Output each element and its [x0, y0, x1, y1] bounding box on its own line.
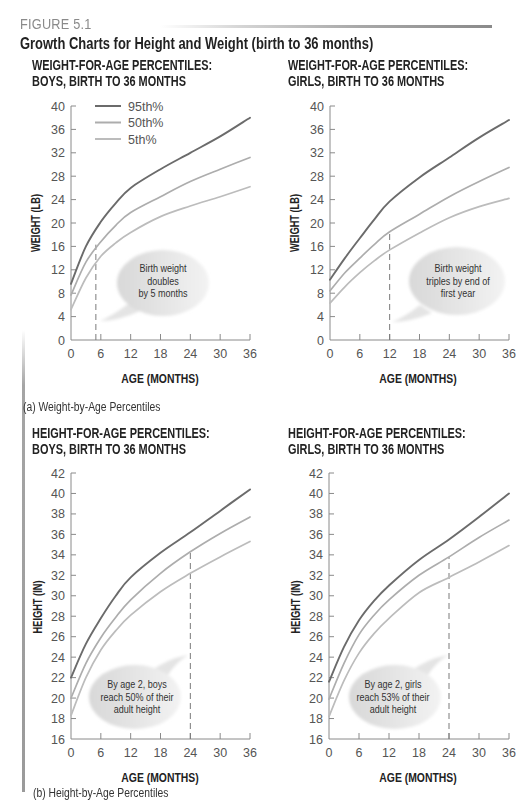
callout-text-girls-weight: Birth weight triples by end of first yea… [426, 262, 490, 300]
y-tick-label: 34 [51, 548, 65, 562]
callout-line: triples by end of [426, 275, 490, 288]
chart-title-boys-weight: WEIGHT-FOR-AGE PERCENTILES: BOYS, BIRTH … [32, 57, 212, 89]
callout-line: adult height [100, 703, 173, 716]
legend-label: 95th% [128, 100, 163, 114]
y-tick-label: 20 [51, 217, 65, 231]
x-tick-label: 12 [382, 746, 396, 760]
y-tick-label: 30 [51, 589, 65, 603]
y-tick-label: 36 [51, 123, 65, 137]
x-tick-label: 24 [183, 746, 197, 760]
y-tick-label: 24 [309, 651, 323, 665]
y-tick-label: 8 [58, 287, 65, 301]
legend-item-p5: 5th% [95, 133, 157, 147]
y-tick-label: 16 [51, 733, 65, 747]
callout-text-boys-weight: Birth weight doubles by 5 months [138, 262, 187, 300]
curve-p95 [329, 494, 509, 682]
y-tick-label: 8 [317, 287, 324, 301]
y-axis-label-girls-weight: WEIGHT (LB) [288, 194, 302, 252]
x-tick-label: 30 [472, 746, 486, 760]
y-axis-label-boys-weight: WEIGHT (LB) [29, 194, 43, 252]
y-tick-label: 18 [51, 712, 65, 726]
y-tick-label: 20 [309, 692, 323, 706]
x-tick-label: 36 [243, 746, 257, 760]
y-tick-label: 22 [51, 671, 65, 685]
callout-line: by 5 months [138, 287, 187, 300]
y-tick-label: 22 [309, 671, 323, 685]
y-tick-label: 28 [51, 610, 65, 624]
y-axis-label-girls-height: HEIGHT (IN) [289, 581, 303, 634]
y-tick-label: 24 [51, 651, 65, 665]
x-axis-label-boys-height: AGE (MONTHS) [121, 770, 198, 785]
y-tick-label: 40 [310, 100, 324, 114]
x-tick-label: 18 [154, 746, 168, 760]
y-tick-label: 24 [310, 193, 324, 207]
y-tick-label: 36 [310, 123, 324, 137]
x-tick-label: 18 [154, 347, 168, 361]
x-axis-label-girls-height: AGE (MONTHS) [379, 770, 456, 785]
callout-tail [392, 305, 432, 322]
x-tick-label: 6 [97, 347, 104, 361]
y-tick-label: 4 [317, 310, 324, 324]
y-tick-label: 12 [310, 263, 324, 277]
callout-text-boys-height: By age 2, boys reach 50% of their adult … [100, 678, 173, 716]
axes-girls-weight: 0481216202428323640061218243036 [310, 100, 516, 362]
x-tick-label: 6 [356, 746, 363, 760]
chart-title-line-1: WEIGHT-FOR-AGE PERCENTILES: [32, 57, 212, 73]
y-tick-label: 38 [309, 507, 323, 521]
legend-item-p95: 95th% [95, 100, 163, 114]
chart-title-line-2: GIRLS, BIRTH TO 36 MONTHS [288, 441, 466, 457]
x-tick-label: 12 [124, 347, 138, 361]
y-tick-label: 26 [309, 630, 323, 644]
x-tick-label: 30 [472, 347, 486, 361]
x-tick-label: 36 [502, 746, 516, 760]
legend-item-p50: 50th% [95, 116, 163, 130]
y-axis-label-boys-height: HEIGHT (IN) [31, 581, 45, 634]
x-tick-label: 36 [243, 347, 257, 361]
x-tick-label: 36 [502, 347, 516, 361]
chart-title-line-1: HEIGHT-FOR-AGE PERCENTILES: [288, 425, 466, 441]
x-tick-label: 0 [68, 347, 75, 361]
callout-line: Birth weight [426, 262, 490, 275]
y-tick-label: 32 [51, 146, 65, 160]
y-tick-label: 36 [309, 528, 323, 542]
legend-label: 5th% [128, 133, 157, 147]
y-tick-label: 24 [51, 193, 65, 207]
y-tick-label: 28 [310, 170, 324, 184]
y-tick-label: 40 [309, 487, 323, 501]
callout-bubbles [89, 247, 505, 729]
x-tick-label: 24 [442, 746, 456, 760]
legend-label: 50th% [128, 116, 163, 130]
callout-line: By age 2, boys [100, 678, 173, 691]
y-tick-label: 40 [51, 487, 65, 501]
y-tick-label: 30 [309, 589, 323, 603]
y-tick-label: 20 [51, 692, 65, 706]
x-tick-label: 12 [124, 746, 138, 760]
x-tick-label: 0 [326, 746, 333, 760]
y-tick-label: 32 [310, 146, 324, 160]
y-tick-label: 38 [51, 507, 65, 521]
y-tick-label: 40 [51, 100, 65, 114]
callout-line: Birth weight [138, 262, 187, 275]
callout-text-girls-height: By age 2, girls reach 53% of their adult… [356, 678, 429, 716]
x-tick-label: 24 [183, 347, 197, 361]
chart-title-line-2: BOYS, BIRTH TO 36 MONTHS [32, 441, 210, 457]
y-tick-label: 36 [51, 528, 65, 542]
y-tick-label: 16 [309, 733, 323, 747]
chart-title-line-1: WEIGHT-FOR-AGE PERCENTILES: [288, 57, 468, 73]
y-tick-label: 16 [51, 240, 65, 254]
legend: 95th%50th%5th% [95, 100, 163, 147]
x-tick-label: 0 [68, 746, 75, 760]
chart-title-boys-height: HEIGHT-FOR-AGE PERCENTILES: BOYS, BIRTH … [32, 425, 210, 457]
x-axis-label-girls-weight: AGE (MONTHS) [379, 371, 456, 386]
curve-p95 [71, 489, 250, 677]
callout-line: reach 50% of their [100, 691, 173, 704]
caption-a: (a) Weight-by-Age Percentiles [23, 400, 160, 414]
callout-line: adult height [356, 703, 429, 716]
callout-line: By age 2, girls [356, 678, 429, 691]
caption-b: (b) Height-by-Age Percentiles [33, 786, 168, 800]
y-tick-label: 42 [309, 467, 323, 481]
x-tick-label: 6 [356, 347, 363, 361]
y-tick-label: 4 [58, 310, 65, 324]
x-tick-label: 30 [213, 347, 227, 361]
